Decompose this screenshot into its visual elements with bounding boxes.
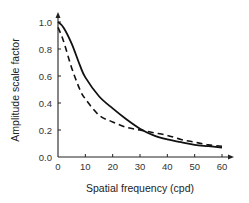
y-tick-label: 0.8 <box>39 44 52 55</box>
x-tick-label: 40 <box>162 161 173 172</box>
series-group <box>58 22 222 148</box>
x-tick-label: 10 <box>80 161 91 172</box>
y-tick-label: 0.6 <box>39 71 52 82</box>
x-tick-label: 30 <box>135 161 146 172</box>
y-tick-label: 0.0 <box>39 152 52 163</box>
x-axis-label: Spatial frequency (cpd) <box>86 182 194 194</box>
y-axis-arrow-icon <box>56 12 61 18</box>
x-tick-label: 60 <box>217 161 228 172</box>
line-chart: 01020304050600.00.20.40.60.81.0 Spatial … <box>0 0 249 203</box>
y-tick-label: 0.2 <box>39 125 52 136</box>
series-line-solid <box>58 22 222 148</box>
x-tick-label: 50 <box>189 161 200 172</box>
y-tick-label: 0.4 <box>39 98 52 109</box>
x-tick-label: 20 <box>107 161 118 172</box>
x-axis-arrow-icon <box>228 155 234 160</box>
y-tick-label: 1.0 <box>39 17 52 28</box>
y-axis-label: Amplitude scale factor <box>9 38 21 142</box>
x-tick-label: 0 <box>55 161 60 172</box>
